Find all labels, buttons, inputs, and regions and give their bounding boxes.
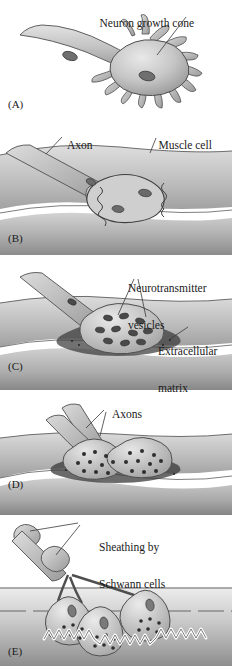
neuromuscular-junction-figure: Neuron growth cone (A) (0, 0, 232, 666)
axon-nucleus-a (62, 50, 79, 63)
label-line-1: Extracellular (158, 345, 217, 357)
label-line-2: Schwann cells (99, 578, 165, 590)
panel-letter-b: (B) (8, 232, 23, 244)
label-axon-b: Axon (56, 127, 92, 164)
label-sheathing-schwann-cells-e: Sheathing by Schwann cells (99, 516, 165, 615)
growth-cone-body-a (110, 40, 189, 96)
panel-letter-a: (A) (8, 98, 23, 110)
panel-letter-c: (C) (8, 360, 23, 372)
label-line-1: Sheathing by (99, 541, 165, 553)
label-neuron-growth-cone: Neuron growth cone (88, 5, 194, 42)
label-axons-d: Axons (101, 396, 142, 433)
panel-letter-e: (E) (8, 645, 22, 657)
leader-line-schwann-1-e (30, 523, 78, 531)
leader-line-schwann-2-e (56, 525, 80, 555)
label-muscle-cell-b: Muscle cell (147, 127, 212, 164)
label-line-1: Neurotransmitter (128, 282, 207, 294)
panel-letter-d: (D) (8, 478, 23, 490)
